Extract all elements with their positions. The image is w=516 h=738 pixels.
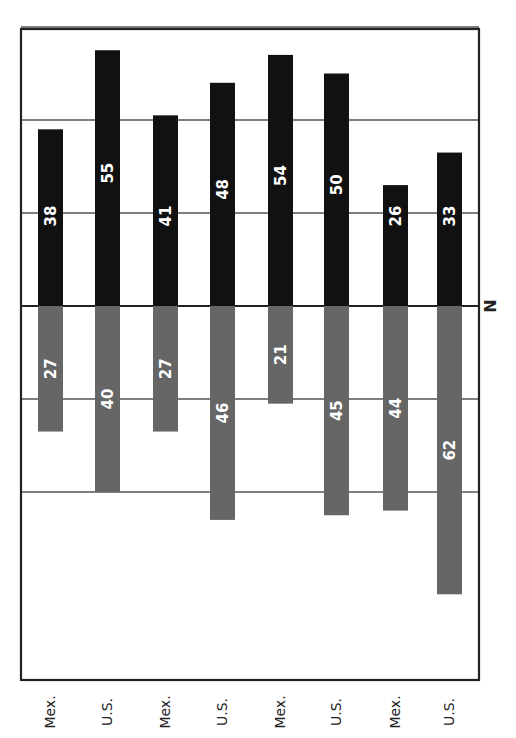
bar-value-label: 41 xyxy=(157,206,175,227)
category-label: Mex. xyxy=(272,695,288,728)
bar-value-label: 38 xyxy=(42,206,60,227)
bar-value-label: 44 xyxy=(387,398,405,419)
diverging-bar-chart: 38275540412748465421504526443362 Mex.U.S… xyxy=(0,0,516,738)
category-label: U.S. xyxy=(328,698,344,726)
bar-value-label: 54 xyxy=(272,165,290,186)
category-label: Mex. xyxy=(157,695,173,728)
category-labels: Mex.U.S.Mex.U.S.Mex.U.S.Mex.U.S. xyxy=(42,695,457,728)
category-label: U.S. xyxy=(99,698,115,726)
bar-value-label: 27 xyxy=(157,358,175,379)
bar-value-label: 27 xyxy=(42,358,60,379)
n-axis-label: N xyxy=(481,299,500,312)
bar-value-label: 46 xyxy=(214,403,232,424)
category-label: U.S. xyxy=(214,698,230,726)
category-label: Mex. xyxy=(387,695,403,728)
bar-value-label: 48 xyxy=(214,179,232,200)
bar-upper xyxy=(437,153,462,306)
bars: 38275540412748465421504526443362 xyxy=(38,50,462,594)
bar-upper xyxy=(383,185,408,306)
bar-value-label: 40 xyxy=(99,389,117,410)
category-label: U.S. xyxy=(441,698,457,726)
bar-value-label: 33 xyxy=(441,206,459,227)
bar-value-label: 21 xyxy=(272,344,290,365)
bar-value-label: 62 xyxy=(441,440,459,461)
bar-value-label: 26 xyxy=(387,206,405,227)
bar-value-label: 55 xyxy=(99,163,117,184)
bar-value-label: 50 xyxy=(328,174,346,195)
plot-frame xyxy=(21,29,479,680)
gridlines xyxy=(21,27,479,492)
category-label: Mex. xyxy=(42,695,58,728)
bar-value-label: 45 xyxy=(328,400,346,421)
